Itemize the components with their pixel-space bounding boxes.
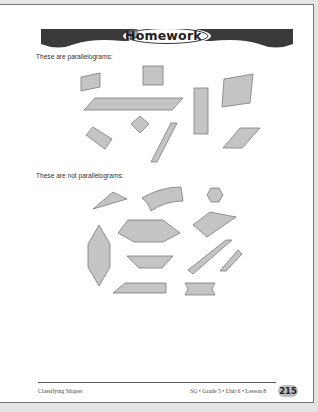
small-hexagon [207, 188, 223, 202]
hexagon-tall [88, 225, 110, 286]
parallelogram-long [84, 98, 183, 110]
footer-divider [38, 382, 276, 383]
worksheet-page: Homework These are parallelograms: These… [0, 4, 314, 403]
notched-rectangle [185, 283, 215, 295]
rectangle-tilted [86, 127, 112, 149]
square-rotated [131, 116, 149, 133]
rhombus-large [222, 74, 253, 107]
triangle [93, 192, 127, 209]
hexagon-wide [118, 220, 180, 242]
curved-shape [142, 187, 183, 211]
trapezoid-bottom [113, 283, 166, 293]
quadrilateral [193, 212, 236, 237]
thin-quadrilateral-short [220, 250, 242, 271]
footer-lesson-info: SG • Grade 5 • Unit 6 • Lesson 8 [190, 388, 266, 394]
square [143, 66, 163, 85]
rectangle-vertical [194, 88, 208, 134]
parallelogram-small [81, 73, 100, 91]
shapes-canvas [0, 5, 318, 405]
trapezoid [127, 256, 173, 268]
parallelogram-thin [151, 123, 177, 162]
parallelogram-right [223, 128, 260, 148]
footer-title: Classifying Shapes [38, 388, 82, 394]
page-number: 215 [278, 385, 298, 397]
